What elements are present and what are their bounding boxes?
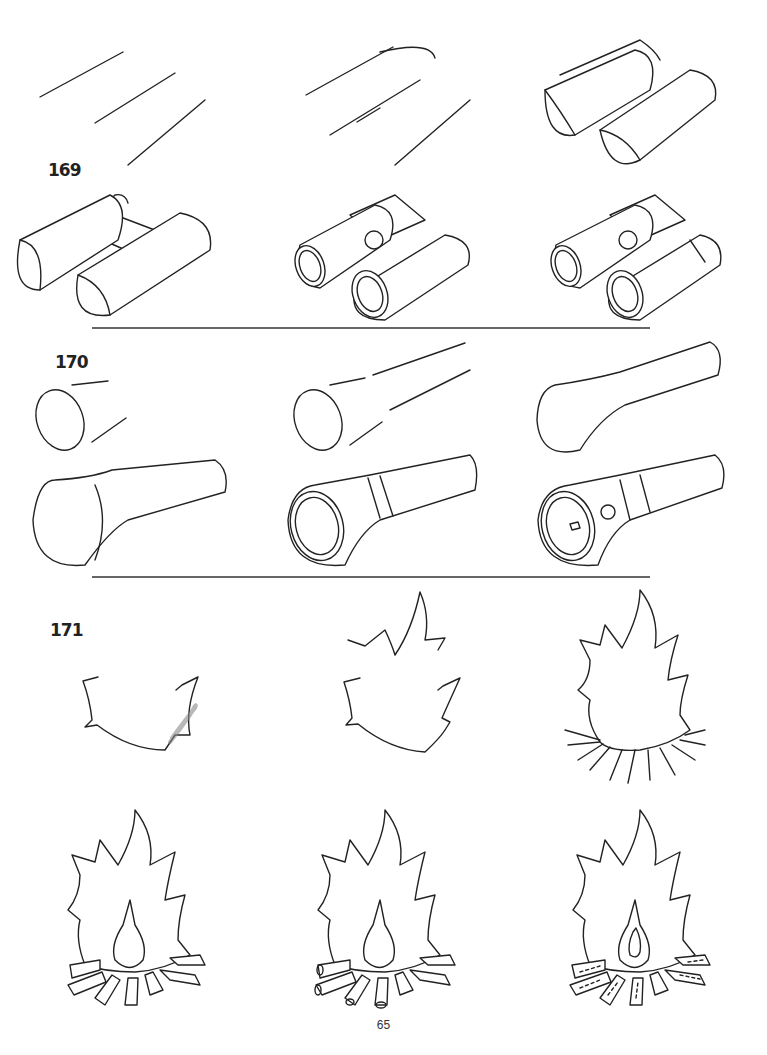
- flashlight-step-5: [283, 455, 477, 567]
- binoculars-step-4: [18, 195, 211, 316]
- binoculars-step-1: [40, 52, 205, 165]
- flashlight-step-3: [537, 342, 720, 452]
- flashlight-step-2: [286, 343, 470, 457]
- binoculars-step-6: [546, 195, 721, 322]
- campfire-step-2: [344, 592, 460, 752]
- campfire-step-5: [315, 810, 455, 1008]
- campfire-step-1: [83, 677, 198, 750]
- binoculars-step-2: [306, 47, 470, 165]
- campfire-step-6: [570, 810, 710, 1005]
- flashlight-step-6: [534, 455, 724, 567]
- flashlight-step-4: [33, 460, 226, 565]
- drawing-steps-canvas: [0, 0, 767, 1055]
- flashlight-step-1: [28, 381, 126, 457]
- campfire-step-4: [68, 810, 205, 1005]
- campfire-step-3: [565, 590, 705, 783]
- binoculars-step-3: [545, 40, 716, 164]
- binoculars-step-5: [290, 195, 470, 322]
